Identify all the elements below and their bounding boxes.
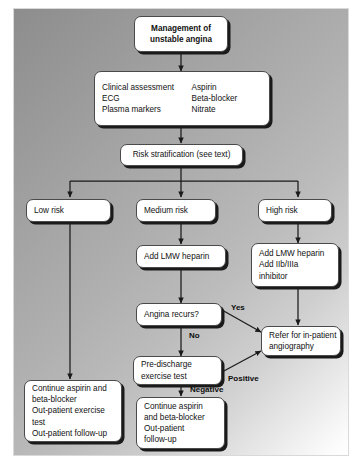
- assessment-item-clinical-assessment: Clinical assessment: [102, 82, 192, 93]
- node-pre-discharge-exercise-test[interactable]: Pre-discharge exercise test: [133, 356, 222, 385]
- risk-stratification-label: Risk stratification (see text): [133, 149, 231, 160]
- node-low-risk[interactable]: Low risk: [26, 199, 111, 222]
- node-medium-add-lmw-heparin[interactable]: Add LMW heparin: [136, 245, 226, 268]
- edge-label-positive: Positive: [228, 374, 259, 383]
- low-risk-outcome-line-4: test: [32, 417, 114, 428]
- edge-label-no: No: [189, 331, 200, 340]
- node-risk-stratification[interactable]: Risk stratification (see text): [120, 144, 243, 166]
- medium-risk-label: Medium risk: [144, 205, 208, 216]
- medium-risk-outcome-line-2: and beta-blocker: [144, 412, 217, 423]
- low-risk-outcome-line-3: Out-patient exercise: [32, 405, 114, 416]
- angiography-line-1: Refer for in-patient: [269, 330, 333, 341]
- low-risk-outcome-line-2: beta-blocker: [32, 394, 114, 405]
- assessment-item-ecg: ECG: [102, 93, 192, 104]
- medium-risk-outcome-line-4: follow-up: [144, 434, 217, 445]
- edge-label-yes: Yes: [231, 303, 245, 312]
- node-start-line-1: Management of: [151, 23, 211, 34]
- node-angina-recurs-decision[interactable]: Angina recurs?: [136, 303, 222, 326]
- assessment-item-plasma-markers: Plasma markers: [102, 104, 192, 115]
- flowchart-root: Management of unstable angina Clinical a…: [0, 0, 361, 470]
- medium-risk-outcome-line-1: Continue aspirin: [144, 401, 217, 412]
- node-medium-risk[interactable]: Medium risk: [136, 199, 216, 222]
- medium-heparin-label: Add LMW heparin: [144, 251, 218, 262]
- node-low-risk-outcome[interactable]: Continue aspirin and beta-blocker Out-pa…: [24, 380, 122, 442]
- high-treatment-line-2: Add IIb/IIIa: [259, 259, 331, 270]
- drug-item-aspirin: Aspirin: [192, 82, 262, 93]
- angina-recurs-label: Angina recurs?: [144, 309, 214, 320]
- node-refer-for-inpatient-angiography[interactable]: Refer for in-patient angiography: [261, 326, 341, 356]
- low-risk-outcome-line-1: Continue aspirin and: [32, 383, 114, 394]
- high-treatment-line-1: Add LMW heparin: [259, 248, 331, 259]
- node-medium-risk-outcome[interactable]: Continue aspirin and beta-blocker Out-pa…: [136, 397, 225, 449]
- node-start-line-2: unstable angina: [150, 34, 212, 45]
- node-high-risk[interactable]: High risk: [258, 199, 332, 222]
- high-risk-label: High risk: [266, 205, 324, 216]
- drug-item-beta-blocker: Beta-blocker: [192, 93, 262, 104]
- node-start-management-unstable-angina[interactable]: Management of unstable angina: [134, 16, 228, 52]
- edge-label-negative: Negative: [190, 385, 223, 394]
- low-risk-outcome-line-5: Out-patient follow-up: [32, 428, 114, 439]
- medium-risk-outcome-line-3: Out-patient: [144, 423, 217, 434]
- node-high-risk-treatment[interactable]: Add LMW heparin Add IIb/IIIa inhibitor: [251, 243, 339, 287]
- node-clinical-assessment-and-drugs[interactable]: Clinical assessment ECG Plasma markers A…: [94, 71, 270, 126]
- exercise-test-line-1: Pre-discharge: [141, 359, 214, 370]
- low-risk-label: Low risk: [34, 205, 103, 216]
- high-treatment-line-3: inhibitor: [259, 271, 331, 282]
- angiography-line-2: angiography: [269, 341, 333, 352]
- exercise-test-line-2: exercise test: [141, 371, 214, 382]
- drug-item-nitrate: Nitrate: [192, 104, 262, 115]
